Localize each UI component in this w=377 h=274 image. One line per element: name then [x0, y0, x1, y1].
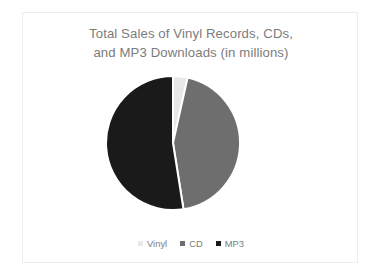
pie-chart-svg: [105, 75, 241, 211]
legend-label: CD: [189, 238, 203, 249]
slide-frame: Total Sales of Vinyl Records, CDs, and M…: [22, 12, 358, 263]
chart-legend: VinylCDMP3: [23, 238, 359, 249]
legend-item-mp3[interactable]: MP3: [216, 238, 244, 249]
legend-item-cd[interactable]: CD: [180, 238, 203, 249]
legend-swatch-icon: [216, 241, 221, 246]
legend-label: MP3: [225, 238, 244, 249]
legend-swatch-icon: [180, 241, 185, 246]
legend-label: Vinyl: [147, 238, 167, 249]
pie-chart: [23, 13, 359, 264]
legend-swatch-icon: [138, 241, 143, 246]
legend-item-vinyl[interactable]: Vinyl: [138, 238, 167, 249]
pie-slice-mp3: [106, 76, 183, 210]
pie-slice-cd: [173, 78, 240, 210]
pie-slice-group: [106, 76, 240, 210]
